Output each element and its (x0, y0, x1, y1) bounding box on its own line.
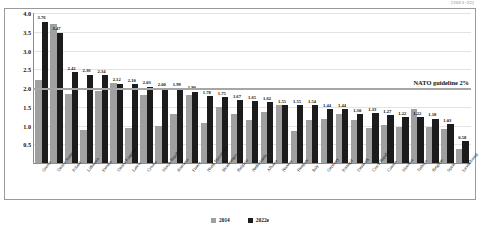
bar-value-label: 1.55 (293, 99, 301, 104)
bar-2022[interactable] (432, 119, 438, 163)
bar-2022[interactable] (237, 100, 243, 163)
x-label-cell: Bulgaria (229, 167, 244, 205)
bar-value-label: 2.34 (98, 69, 106, 74)
corner-tag: [2021-22] (451, 0, 474, 5)
x-axis-labels: GreeceUnited StatesPolandLithuaniaEstoni… (33, 167, 471, 205)
bar-value-label: 2.42 (68, 66, 76, 71)
bar-value-label: 1.75 (218, 91, 226, 96)
bar-value-label: 2.03 (143, 80, 151, 85)
x-label-cell: Albania (259, 167, 274, 205)
chart-legend: 2014 2022e (5, 213, 475, 227)
x-label-cell: Estonia (94, 167, 109, 205)
x-label-cell: Hungary (290, 167, 305, 205)
x-label-cell: Greece (34, 167, 49, 205)
bar-2022[interactable] (342, 109, 348, 163)
bar-value-label: 1.67 (233, 94, 241, 99)
x-label-cell: Montenegro (214, 167, 229, 205)
bar-2022[interactable] (192, 92, 198, 163)
bar-2022[interactable] (252, 101, 258, 163)
legend-swatch-2014-icon (211, 218, 216, 223)
bar-value-label: 2.00 (158, 82, 166, 87)
bar-value-label: 2.10 (128, 78, 136, 83)
bar-2022[interactable] (147, 87, 153, 163)
bar-2022[interactable] (42, 22, 48, 163)
bar-2022[interactable] (282, 105, 288, 163)
y-tick-label: 2.5 (23, 66, 31, 73)
legend-item-2014[interactable]: 2014 (211, 217, 230, 223)
bar-value-label: 1.22 (398, 111, 406, 116)
y-tick-label: 3.5 (23, 28, 31, 35)
bar-value-label: 1.54 (308, 99, 316, 104)
y-tick-label: 1.5 (23, 103, 31, 110)
bar-value-label: 1.22 (413, 111, 421, 116)
bar-2022[interactable] (72, 72, 78, 163)
bar-value-label: 1.55 (278, 99, 286, 104)
bar-value-label: 1.18 (428, 112, 436, 117)
y-tick-label: 2.0 (23, 85, 31, 92)
bar-value-label: 1.62 (263, 96, 271, 101)
x-label-cell: Lithuania (79, 167, 94, 205)
x-label-cell: Romania (169, 167, 184, 205)
bar-value-label: 0.58 (458, 135, 466, 140)
bar-2022[interactable] (207, 96, 213, 163)
bar-2022[interactable] (417, 117, 423, 163)
x-label-cell: Latvia (124, 167, 139, 205)
chart-page: [2021-22] 0.51.01.52.02.53.03.54.0 3.763… (0, 0, 480, 229)
bar-value-label: 1.33 (368, 107, 376, 112)
bar-2022[interactable] (267, 102, 273, 163)
x-label-cell: Denmark (350, 167, 365, 205)
bar-value-label: 1.27 (383, 109, 391, 114)
x-label-cell: Luxembourg (455, 167, 470, 205)
x-label-cell: Slovenia (395, 167, 410, 205)
bar-2022[interactable] (117, 84, 123, 164)
bar-value-label: 1.44 (338, 103, 346, 108)
x-label-cell: Czech Republic (365, 167, 380, 205)
x-label-cell: United Kingdom (109, 167, 124, 205)
plot-frame: 0.51.01.52.02.53.03.54.0 3.763.472.422.3… (4, 8, 476, 200)
bar-value-label: 1.03 (443, 118, 451, 123)
bar-2022[interactable] (57, 33, 63, 163)
bar-value-label: 1.78 (203, 90, 211, 95)
bar-value-label: 1.65 (248, 95, 256, 100)
x-label-cell: Croatia (139, 167, 154, 205)
bar-value-label: 1.99 (173, 82, 181, 87)
nato-guideline (33, 88, 471, 90)
x-label-cell: Italy (305, 167, 320, 205)
x-label-cell: Belgium (425, 167, 440, 205)
bar-2022[interactable] (162, 88, 168, 163)
y-tick-label: 1.0 (23, 122, 31, 129)
x-label-cell: Slovak Republic (154, 167, 169, 205)
legend-label-2022: 2022e (256, 217, 269, 223)
plot-area: 3.763.472.422.362.342.122.102.032.001.99… (33, 13, 471, 164)
x-label-cell: Canada (380, 167, 395, 205)
x-label-cell: Turkiye (410, 167, 425, 205)
x-label-cell: Portugal (335, 167, 350, 205)
x-label-cell: Netherlands (244, 167, 259, 205)
bar-2022[interactable] (387, 115, 393, 163)
bar-value-label: 3.76 (37, 15, 45, 20)
bar-value-label: 2.12 (113, 77, 121, 82)
bar-2022[interactable] (327, 109, 333, 163)
nato-guideline-label: NATO guideline 2% (413, 79, 469, 86)
legend-swatch-2022-icon (248, 218, 253, 223)
bar-value-label: 1.30 (353, 108, 361, 113)
legend-item-2022[interactable]: 2022e (248, 217, 269, 223)
bar-2022[interactable] (357, 114, 363, 163)
y-tick-label: 0.5 (23, 141, 31, 148)
y-tick-label: 3.0 (23, 47, 31, 54)
x-label-cell: Germany (320, 167, 335, 205)
x-label-cell: France (184, 167, 199, 205)
x-label-cell: United States (49, 167, 64, 205)
bar-2022[interactable] (447, 124, 453, 163)
bar-2022[interactable] (297, 105, 303, 163)
x-label-cell: Norway (275, 167, 290, 205)
y-axis: 0.51.01.52.02.53.03.54.0 (5, 9, 33, 164)
x-label-cell: Poland (64, 167, 79, 205)
bar-value-label: 2.36 (83, 68, 91, 73)
x-label-cell: North Macedonia (199, 167, 214, 205)
legend-label-2014: 2014 (219, 217, 230, 223)
bar-2022[interactable] (402, 117, 408, 163)
bar-2022[interactable] (312, 105, 318, 163)
bar-2022[interactable] (372, 113, 378, 163)
x-label-cell: Spain (440, 167, 455, 205)
